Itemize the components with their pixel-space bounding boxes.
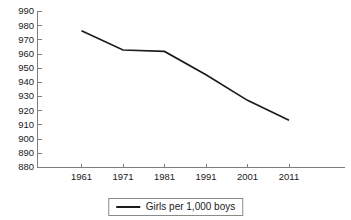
y-axis-tick-label: 950 [18, 62, 34, 73]
y-axis-tick-label: 970 [18, 34, 34, 45]
x-axis-tick-label: 1971 [112, 171, 133, 182]
line-chart-plot: 880890900910920930940950960970980990 196… [0, 0, 351, 220]
y-axis-tick-label: 990 [18, 5, 34, 16]
x-axis-tick-label: 1991 [195, 171, 216, 182]
x-axis-tick-label: 2011 [279, 171, 299, 182]
y-axis-tick-label: 980 [18, 20, 34, 31]
legend-line-swatch [116, 206, 140, 208]
y-axis-tick-label: 900 [18, 133, 34, 144]
y-axis-tick-label: 910 [18, 119, 34, 130]
chart-legend: Girls per 1,000 boys [108, 198, 244, 216]
y-axis-tick-label: 880 [18, 161, 34, 172]
y-axis-tick-marks [38, 12, 42, 168]
series-line-girls-per-1000-boys [82, 31, 290, 120]
x-axis-tick-label: 2001 [237, 171, 258, 182]
y-axis-tick-label: 940 [18, 76, 34, 87]
x-axis-tick-marks [82, 164, 290, 168]
y-axis-tick-label: 920 [18, 105, 34, 116]
y-axis-tick-label: 890 [18, 147, 34, 158]
y-axis-tick-labels: 880890900910920930940950960970980990 [18, 5, 34, 172]
y-axis-tick-label: 930 [18, 90, 34, 101]
legend-item-label: Girls per 1,000 boys [146, 201, 236, 212]
y-axis-tick-label: 960 [18, 48, 34, 59]
data-series-group [82, 31, 290, 120]
chart-container: 880890900910920930940950960970980990 196… [0, 0, 351, 220]
x-axis-tick-labels: 196119711981199120012011 [71, 171, 299, 182]
x-axis-tick-label: 1981 [154, 171, 175, 182]
x-axis-tick-label: 1961 [71, 171, 92, 182]
